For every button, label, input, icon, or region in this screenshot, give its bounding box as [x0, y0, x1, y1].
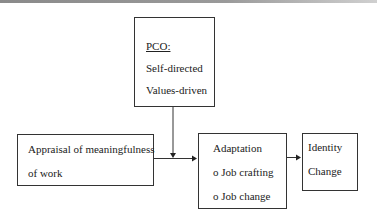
arrowhead-right-icon [192, 156, 197, 162]
arrowhead-right-icon [296, 155, 301, 161]
arrowhead-down-icon [170, 153, 176, 158]
connector-arrows [0, 0, 377, 216]
